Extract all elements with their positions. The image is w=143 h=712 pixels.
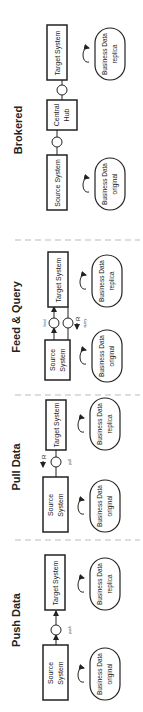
- svg-text:replica: replica: [106, 414, 114, 434]
- section-brokered: Brokered Source System Central Hub Targe…: [12, 25, 125, 210]
- section-title: Push Data: [10, 592, 22, 647]
- section-title: Pull Data: [10, 443, 22, 491]
- svg-text:Business Data: Business Data: [101, 33, 108, 75]
- svg-text:System: System: [57, 493, 65, 517]
- integration-patterns-diagram: Push Data Source System push Target Syst…: [0, 0, 143, 712]
- svg-text:Business Data: Business Data: [96, 563, 103, 605]
- business-data-original: Business Data original: [78, 480, 120, 532]
- business-data-replica: Business Data replica: [80, 255, 122, 307]
- business-data-original: Business Data original: [80, 330, 122, 382]
- connector-label: pull: [68, 459, 72, 465]
- svg-text:Target System: Target System: [52, 560, 60, 605]
- business-data-replica: Business Data replica: [78, 558, 120, 610]
- svg-text:Target System: Target System: [53, 402, 61, 447]
- connector-query: [63, 318, 73, 328]
- cycle-arrow-icon: [78, 418, 84, 432]
- svg-text:Business Data: Business Data: [98, 260, 105, 302]
- connector-push: [51, 625, 61, 635]
- source-system-box: Source System: [47, 155, 67, 210]
- svg-text:Target System: Target System: [55, 257, 63, 302]
- svg-text:Business Data: Business Data: [101, 163, 108, 205]
- svg-text:replica: replica: [108, 271, 116, 291]
- request-marker: R: [75, 316, 81, 321]
- svg-text:replica: replica: [106, 574, 114, 594]
- section-pull-data: Pull Data Source System R pull Target Sy…: [10, 398, 120, 532]
- svg-text:Business Data: Business Data: [96, 485, 103, 527]
- source-system-box: Source System: [43, 645, 68, 700]
- section-title: Feed & Query: [10, 280, 22, 352]
- connector-label: query: [83, 318, 87, 327]
- central-hub-box: Central Hub: [47, 100, 77, 130]
- svg-text:Hub: Hub: [63, 108, 70, 121]
- cycle-arrow-icon: [80, 350, 86, 364]
- svg-text:original: original: [106, 663, 114, 685]
- section-title: Brokered: [12, 106, 24, 154]
- source-system-box: Source System: [45, 340, 70, 380]
- target-system-box: Target System: [46, 400, 66, 450]
- cycle-arrow-icon: [78, 500, 84, 514]
- business-data-replica: Business Data replica: [78, 398, 120, 450]
- business-data-replica: Business Data replica: [83, 28, 125, 80]
- target-system-box: Target System: [47, 25, 67, 80]
- svg-text:Source: Source: [49, 349, 56, 371]
- svg-text:Source: Source: [47, 494, 54, 516]
- section-push-data: Push Data Source System push Target Syst…: [10, 555, 120, 700]
- source-system-box: Source System: [43, 477, 68, 532]
- connector-pull: [51, 457, 61, 467]
- business-data-original: Business Data original: [78, 648, 120, 700]
- svg-text:original: original: [108, 345, 116, 367]
- svg-text:Target System: Target System: [54, 30, 62, 75]
- svg-text:System: System: [59, 348, 67, 372]
- svg-text:original: original: [111, 173, 119, 195]
- svg-text:replica: replica: [111, 44, 119, 64]
- cycle-arrow-icon: [83, 48, 89, 62]
- cycle-arrow-icon: [80, 275, 86, 289]
- target-system-box: Target System: [45, 555, 65, 610]
- svg-text:Business Data: Business Data: [96, 403, 103, 445]
- svg-text:Central: Central: [53, 103, 60, 126]
- svg-text:Business Data: Business Data: [96, 653, 103, 695]
- svg-text:original: original: [106, 495, 114, 517]
- section-feed-and-query: Feed & Query Source System feed R query …: [10, 252, 122, 382]
- connector-feed: [49, 318, 59, 328]
- connector-source-hub: [52, 137, 62, 147]
- business-data-original: Business Data original: [83, 158, 125, 210]
- cycle-arrow-icon: [78, 578, 84, 592]
- connector-label: feed: [43, 320, 47, 327]
- connector-label: push: [68, 626, 72, 634]
- svg-text:Source: Source: [47, 662, 54, 684]
- svg-text:Source System: Source System: [54, 159, 62, 207]
- target-system-box: Target System: [48, 252, 68, 307]
- cycle-arrow-icon: [83, 178, 89, 192]
- connector-hub-target: [57, 85, 67, 95]
- cycle-arrow-icon: [78, 668, 84, 682]
- svg-text:System: System: [57, 661, 65, 685]
- request-marker: R: [41, 454, 47, 459]
- svg-text:Business Data: Business Data: [98, 335, 105, 377]
